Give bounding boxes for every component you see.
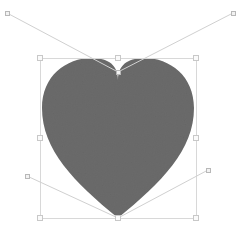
top-left-resize-handle[interactable] — [38, 56, 43, 61]
top-right-resize-handle[interactable] — [194, 56, 199, 61]
top-center-resize-handle[interactable] — [116, 56, 121, 61]
anchor-top-notch[interactable] — [116, 70, 120, 74]
bezier-handle-bottom-left[interactable] — [25, 174, 29, 178]
bottom-right-resize-handle[interactable] — [194, 216, 199, 221]
bottom-left-resize-handle[interactable] — [38, 216, 43, 221]
bezier-handle-bottom-right[interactable] — [206, 168, 210, 172]
vector-editor-canvas[interactable] — [0, 0, 245, 234]
bezier-handle-top-left[interactable] — [5, 11, 9, 15]
middle-right-resize-handle[interactable] — [194, 136, 199, 141]
bottom-center-resize-handle[interactable] — [116, 216, 121, 221]
bezier-handle-top-right[interactable] — [231, 11, 235, 15]
middle-left-resize-handle[interactable] — [38, 136, 43, 141]
canvas-svg[interactable] — [0, 0, 245, 234]
